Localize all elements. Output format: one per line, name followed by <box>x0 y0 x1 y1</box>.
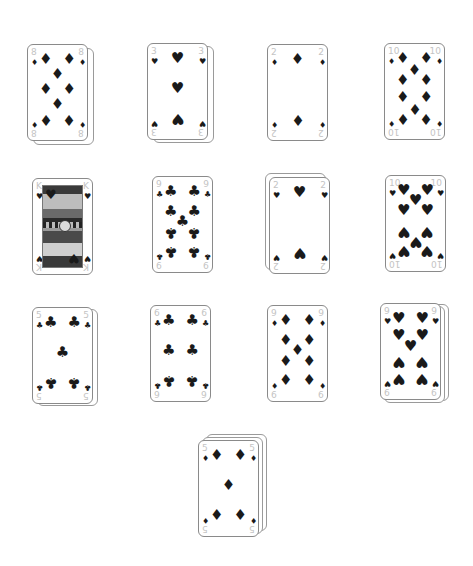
rank-index: 5 <box>249 444 255 453</box>
rank-index: 8 <box>78 48 84 57</box>
clubs-icon: ♣ <box>84 322 91 330</box>
playing-card[interactable]: 3333♥♥♥♥♥♥♥ <box>147 43 208 140</box>
diamonds-icon: ♦ <box>271 320 278 328</box>
clubs-pip-icon: ♣ <box>188 244 201 259</box>
diamonds-pip-icon: ♦ <box>291 52 304 67</box>
rank-index: 9 <box>156 260 162 269</box>
rank-index: 2 <box>273 261 279 270</box>
rank-index: 10 <box>389 259 400 268</box>
diamonds-icon: ♦ <box>388 58 395 66</box>
hearts-icon: ♥ <box>437 190 444 198</box>
clubs-icon: ♣ <box>36 322 43 330</box>
diamonds-pip-icon: ♦ <box>420 111 433 126</box>
diamonds-pip-icon: ♦ <box>279 313 292 328</box>
clubs-icon: ♣ <box>204 191 211 199</box>
diamonds-pip-icon: ♦ <box>63 81 76 96</box>
clubs-icon: ♣ <box>36 383 43 391</box>
rank-index: 9 <box>271 309 277 318</box>
clubs-pip-icon: ♣ <box>186 313 199 328</box>
rank-index: K <box>83 262 89 271</box>
rank-index: 3 <box>198 47 204 56</box>
playing-card[interactable]: 5555♣♣♣♣♣♣♣♣♣ <box>32 307 93 404</box>
playing-card[interactable]: KKKK♥♥♥♥♥♥ <box>32 178 93 275</box>
diamonds-pip-icon: ♦ <box>63 52 76 67</box>
rank-index: 5 <box>202 524 208 533</box>
hearts-icon: ♥ <box>199 58 206 66</box>
playing-card[interactable]: 10101010♦♦♦♦♦♦♦♦♦♦♦♦♦♦ <box>384 43 445 140</box>
hearts-pip-icon: ♥ <box>392 311 405 326</box>
diamonds-pip-icon: ♦ <box>420 73 433 88</box>
playing-card[interactable]: 6666♣♣♣♣♣♣♣♣♣♣ <box>150 305 211 402</box>
diamonds-pip-icon: ♦ <box>303 354 316 369</box>
playing-card[interactable]: 9999♦♦♦♦♦♦♦♦♦♦♦♦♦ <box>267 305 328 402</box>
rank-index: 9 <box>384 307 390 316</box>
hearts-icon: ♥ <box>437 251 444 259</box>
diamonds-icon: ♦ <box>31 120 38 128</box>
diamonds-icon: ♦ <box>31 59 38 67</box>
playing-card[interactable]: 9999♣♣♣♣♣♣♣♣♣♣♣♣♣ <box>152 176 213 273</box>
hearts-icon: ♥ <box>321 253 328 261</box>
diamonds-icon: ♦ <box>319 59 326 67</box>
hearts-icon: ♥ <box>273 192 280 200</box>
playing-card[interactable]: 9999♥♥♥♥♥♥♥♥♥♥♥♥♥ <box>380 303 441 400</box>
clubs-icon: ♣ <box>204 252 211 260</box>
diamonds-icon: ♦ <box>436 58 443 66</box>
hearts-icon: ♥ <box>384 379 391 387</box>
clubs-pip-icon: ♣ <box>164 184 177 199</box>
diamonds-icon: ♦ <box>319 320 326 328</box>
rank-index: 6 <box>201 389 207 398</box>
hearts-pip-icon: ♥ <box>421 183 434 198</box>
diamonds-pip-icon: ♦ <box>234 508 247 523</box>
diamonds-pip-icon: ♦ <box>303 313 316 328</box>
clubs-pip-icon: ♣ <box>188 225 201 240</box>
diamonds-pip-icon: ♦ <box>279 373 292 388</box>
playing-card[interactable]: 5555♦♦♦♦♦♦♦♦♦ <box>198 440 259 537</box>
hearts-pip-icon: ♥ <box>404 338 417 353</box>
rank-index: 5 <box>249 524 255 533</box>
hearts-pip-icon: ♥ <box>397 203 410 218</box>
rank-index: 2 <box>320 261 326 270</box>
clubs-icon: ♣ <box>202 320 209 328</box>
hearts-pip-icon: ♥ <box>171 80 184 95</box>
rank-index: 8 <box>31 48 37 57</box>
playing-card[interactable]: 10101010♥♥♥♥♥♥♥♥♥♥♥♥♥♥ <box>385 175 446 272</box>
rank-index: 5 <box>36 311 42 320</box>
hearts-icon: ♥ <box>273 253 280 261</box>
diamonds-icon: ♦ <box>250 516 257 524</box>
playing-card[interactable]: 2222♥♥♥♥♥♥ <box>269 177 330 274</box>
playing-card[interactable]: 8888♦♦♦♦♦♦♦♦♦♦♦♦ <box>27 44 88 141</box>
hearts-pip-icon: ♥ <box>392 371 405 386</box>
diamonds-icon: ♦ <box>271 59 278 67</box>
rank-index: 9 <box>384 387 390 396</box>
diamonds-pip-icon: ♦ <box>210 448 223 463</box>
rank-index: 10 <box>430 127 441 136</box>
diamonds-pip-icon: ♦ <box>279 354 292 369</box>
clubs-icon: ♣ <box>84 383 91 391</box>
playing-card[interactable]: 2222♦♦♦♦♦♦ <box>267 44 328 141</box>
rank-index: 8 <box>31 128 37 137</box>
hearts-pip-icon: ♥ <box>397 243 410 258</box>
hearts-pip-icon: ♥ <box>416 354 429 369</box>
clubs-pip-icon: ♣ <box>186 342 199 357</box>
diamonds-pip-icon: ♦ <box>291 112 304 127</box>
diamonds-pip-icon: ♦ <box>396 73 409 88</box>
hearts-pip-icon: ♥ <box>416 371 429 386</box>
diamonds-pip-icon: ♦ <box>303 333 316 348</box>
diamonds-pip-icon: ♦ <box>396 111 409 126</box>
clubs-pip-icon: ♣ <box>186 373 199 388</box>
diamonds-icon: ♦ <box>202 455 209 463</box>
hearts-pip-icon: ♥ <box>421 243 434 258</box>
hearts-icon: ♥ <box>199 119 206 127</box>
clubs-pip-icon: ♣ <box>162 373 175 388</box>
hearts-pip-icon: ♥ <box>293 185 306 200</box>
diamonds-icon: ♦ <box>250 455 257 463</box>
rank-index: 2 <box>320 181 326 190</box>
clubs-pip-icon: ♣ <box>162 313 175 328</box>
diamonds-icon: ♦ <box>271 120 278 128</box>
hearts-icon: ♥ <box>84 254 91 262</box>
rank-index: 9 <box>318 309 324 318</box>
hearts-icon: ♥ <box>151 119 158 127</box>
diamonds-icon: ♦ <box>202 516 209 524</box>
rank-index: 9 <box>431 387 437 396</box>
hearts-pip-icon: ♥ <box>416 311 429 326</box>
